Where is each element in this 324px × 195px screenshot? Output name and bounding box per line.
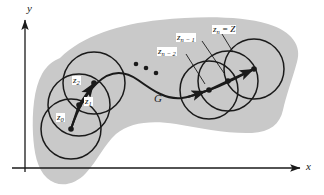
point-z0	[68, 126, 74, 132]
point-zn	[251, 66, 257, 72]
y-axis-label: y	[27, 3, 32, 14]
point-label-zn-sub: n	[217, 28, 220, 35]
point-zn2	[206, 87, 212, 93]
point-label-zn2-base: z	[158, 46, 162, 56]
point-label-z1-sub: 1	[89, 100, 92, 107]
point-label-zn2: zn − 2	[157, 47, 177, 56]
point-label-z0: z0	[56, 113, 65, 122]
point-label-z0-base: z	[57, 112, 61, 122]
point-label-z2-base: z	[73, 75, 77, 85]
ellipsis-dot-2	[144, 66, 149, 71]
point-label-zn2-sub: n − 2	[162, 50, 176, 57]
point-label-z2-sub: 2	[77, 79, 80, 86]
point-label-zn-eq: = Z	[220, 24, 236, 34]
x-axis-label: x	[306, 161, 311, 172]
point-label-zn1-base: z	[177, 32, 181, 42]
ellipsis-dot-3	[154, 71, 159, 76]
point-label-zn1-sub: n − 1	[181, 36, 195, 43]
point-label-z2: z2	[72, 76, 81, 85]
point-label-zn: zn = Z	[212, 25, 236, 34]
figure-root: y x G z0 z1 z2 zn − 2 zn − 1 zn = Z	[0, 0, 324, 195]
ellipsis-dot-1	[134, 62, 139, 67]
figure-canvas	[0, 0, 324, 195]
point-label-z1-base: z	[85, 96, 89, 106]
point-z2	[91, 80, 97, 86]
point-label-zn1: zn − 1	[176, 33, 196, 42]
point-z1	[76, 102, 82, 108]
point-label-z0-sub: 0	[61, 116, 64, 123]
point-label-zn-base: z	[213, 24, 217, 34]
region-label-G: G	[154, 93, 162, 104]
point-label-z1: z1	[84, 97, 93, 106]
point-zn1	[225, 78, 231, 84]
